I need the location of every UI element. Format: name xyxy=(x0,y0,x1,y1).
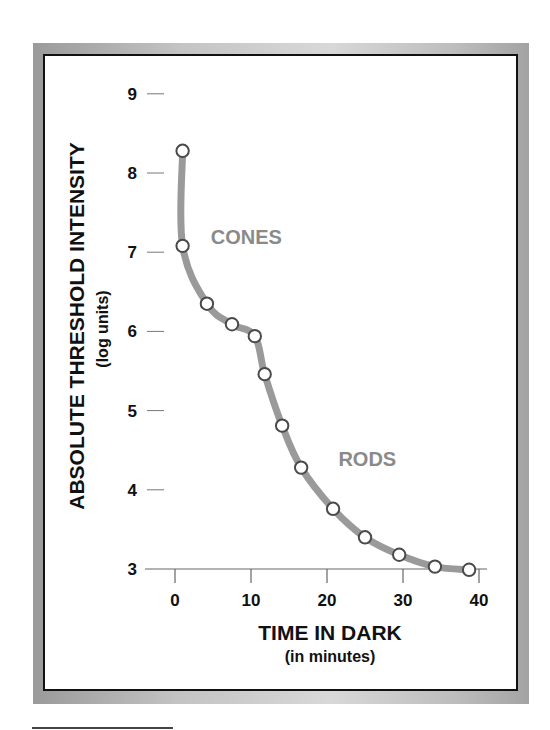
y-tick-label: 6 xyxy=(128,322,137,341)
data-point-marker xyxy=(393,549,405,561)
x-tick-label: 40 xyxy=(470,591,489,610)
data-point-marker xyxy=(463,564,475,576)
data-point-marker xyxy=(176,145,188,157)
y-tick-label: 8 xyxy=(128,164,137,183)
data-point-marker xyxy=(359,531,371,543)
y-axis-subtitle: (log units) xyxy=(94,290,111,367)
data-point-marker xyxy=(429,560,441,572)
data-point-marker xyxy=(276,419,288,431)
y-tick-label: 4 xyxy=(128,481,138,500)
dark-adaptation-chart: 3456789 010203040 ABSOLUTE THRESHOLD INT… xyxy=(0,0,550,730)
y-axis-title: ABSOLUTE THRESHOLD INTENSITY xyxy=(65,142,88,510)
data-point-marker xyxy=(258,368,270,380)
annotation-cones: CONES xyxy=(211,226,282,248)
x-tick-label: 0 xyxy=(170,591,179,610)
data-series xyxy=(176,145,475,576)
data-point-marker xyxy=(295,461,307,473)
annotation-rods: RODS xyxy=(338,448,396,470)
x-tick-label: 30 xyxy=(394,591,413,610)
data-point-marker xyxy=(249,330,261,342)
x-axis-title: TIME IN DARK xyxy=(258,621,402,644)
annotations: CONESRODS xyxy=(211,226,396,470)
x-axis-subtitle: (in minutes) xyxy=(285,648,376,665)
data-point-marker xyxy=(176,240,188,252)
y-tick-label: 7 xyxy=(128,243,137,262)
x-tick-label: 20 xyxy=(318,591,337,610)
data-point-marker xyxy=(226,318,238,330)
x-axis: 010203040 xyxy=(145,569,488,610)
series-line xyxy=(181,151,469,570)
data-point-marker xyxy=(327,503,339,515)
y-tick-label: 3 xyxy=(128,560,137,579)
y-tick-label: 9 xyxy=(128,85,137,104)
y-tick-label: 5 xyxy=(128,402,137,421)
data-point-marker xyxy=(201,297,213,309)
x-tick-label: 10 xyxy=(242,591,261,610)
y-axis: 3456789 xyxy=(128,85,164,579)
